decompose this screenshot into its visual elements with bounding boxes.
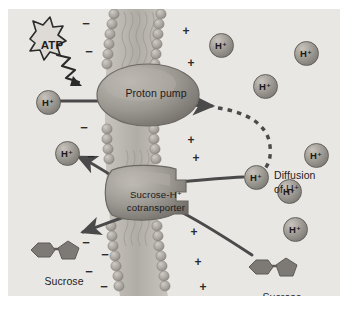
- proton-sphere-label: H⁺: [300, 48, 312, 59]
- arrow-diffusion-dashed: [218, 108, 270, 174]
- proton-sphere-label: H⁺: [250, 172, 262, 183]
- sucrose-right-label: Sucrose: [242, 292, 322, 296]
- diffusion-label-line1: Diffusion: [274, 170, 340, 181]
- membrane-charge-plus-0: +: [180, 23, 192, 39]
- membrane-charge-plus-1: +: [185, 55, 197, 71]
- membrane-charge-minus-1: −: [83, 44, 95, 60]
- proton-cytosol-1: H⁺: [209, 33, 234, 58]
- proton-cytosol-3: H⁺: [253, 74, 278, 99]
- atp-label: ATP: [30, 39, 74, 51]
- atp-energy-group: [30, 17, 82, 86]
- membrane-charge-plus-6: +: [197, 279, 209, 295]
- proton-sphere-label: H⁺: [289, 224, 301, 235]
- proton-sphere-label: H⁺: [259, 81, 271, 92]
- membrane-charge-minus-3: −: [85, 149, 97, 165]
- proton-cytosol-4: H⁺: [304, 143, 329, 168]
- proton-at-carrier: H⁺: [244, 165, 269, 190]
- arrow-pump-exit: [160, 104, 212, 106]
- cotransporter-label-line2: cotransporter: [106, 203, 206, 213]
- proton-pump-label: Proton pump: [110, 88, 202, 99]
- membrane-charge-minus-4: −: [80, 235, 92, 251]
- diagram-panel: H⁺H⁺H⁺H⁺H⁺H⁺H⁺H⁺H⁺ −−−−−−−−+++++++ ATP P…: [8, 9, 340, 296]
- lightning-arrow: [57, 55, 79, 82]
- membrane-charge-plus-3: +: [190, 150, 202, 166]
- arrow-sucrose-out: [83, 212, 138, 232]
- proton-sphere-label: H⁺: [215, 40, 227, 51]
- diagram-figure: H⁺H⁺H⁺H⁺H⁺H⁺H⁺H⁺H⁺ −−−−−−−−+++++++ ATP P…: [0, 0, 348, 309]
- proton-returning: H⁺: [55, 141, 80, 166]
- plasma-membrane: [102, 9, 170, 296]
- sucrose-molecule-left: [31, 241, 79, 259]
- proton-cytosol-2: H⁺: [294, 41, 319, 66]
- cotransporter-label-line1: Sucrose-H⁺: [106, 190, 206, 200]
- proton-sphere-label: H⁺: [61, 148, 73, 159]
- membrane-charge-minus-2: −: [78, 120, 90, 136]
- proton-sphere-label: H⁺: [42, 97, 54, 108]
- lightning-arrowhead: [70, 76, 82, 86]
- membrane-charge-plus-2: +: [185, 132, 197, 148]
- arrow-proton-in: [180, 177, 243, 182]
- sucrose-molecule-right: [249, 258, 297, 276]
- membrane-charge-minus-6: −: [99, 247, 111, 263]
- membrane-charge-plus-4: +: [188, 224, 200, 240]
- membrane-charge-minus-0: −: [80, 16, 92, 32]
- proton-pumped-in: H⁺: [36, 90, 61, 115]
- phospholipid-heads-inner: [149, 9, 170, 291]
- proton-cytosol-6: H⁺: [283, 217, 308, 242]
- membrane-charge-plus-5: +: [192, 254, 204, 270]
- sucrose-left-label: Sucrose: [24, 276, 104, 287]
- diffusion-label-line2: of H⁺: [274, 184, 340, 195]
- proton-sphere-label: H⁺: [310, 150, 322, 161]
